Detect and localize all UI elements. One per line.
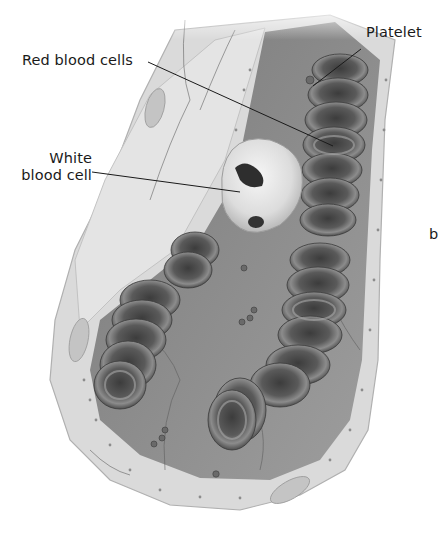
label-platelet: Platelet [366,24,422,41]
label-red-blood-cells: Red blood cells [22,52,133,69]
label-white-blood-cell-line1: White [8,150,92,167]
label-white-blood-cell-line2: blood cell [8,167,92,184]
label-white-blood-cell: White blood cell [8,150,92,184]
label-clipped-fragment: b [429,226,438,243]
blood-vessel-diagram: Red blood cells White blood cell Platele… [0,0,440,537]
vessel-illustration [0,0,440,537]
